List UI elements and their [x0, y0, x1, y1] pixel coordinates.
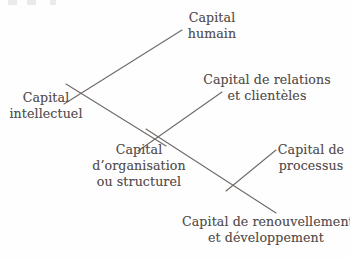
capital-intellectuel-tree-diagram: Capital intellectuel Capital humain Capi… [0, 0, 350, 260]
node-line: et développement [182, 230, 350, 246]
node-capital-d-organisation-ou-structurel: Capital d’organisation ou structurel [85, 142, 193, 190]
node-capital-de-renouvellement-et-developpement: Capital de renouvellement et développeme… [182, 214, 350, 246]
edge-branch-processus [226, 150, 276, 191]
node-line: processus [272, 158, 350, 174]
node-line: humain [166, 26, 258, 42]
node-line: Capital de relations [203, 72, 331, 88]
node-line: ou structurel [85, 174, 193, 190]
node-line: et clientèles [203, 88, 331, 104]
node-line: Capital [85, 142, 193, 158]
node-line: intellectuel [4, 106, 88, 122]
node-line: Capital de renouvellement [182, 214, 350, 230]
scan-artifact [6, 0, 68, 5]
node-capital-intellectuel: Capital intellectuel [4, 90, 88, 122]
node-line: Capital [166, 10, 258, 26]
node-capital-de-relations-et-clienteles: Capital de relations et clientèles [203, 72, 331, 104]
node-capital-de-processus: Capital de processus [272, 142, 350, 174]
node-line: Capital [4, 90, 88, 106]
node-capital-humain: Capital humain [166, 10, 258, 42]
node-line: Capital de [272, 142, 350, 158]
node-line: d’organisation [85, 158, 193, 174]
